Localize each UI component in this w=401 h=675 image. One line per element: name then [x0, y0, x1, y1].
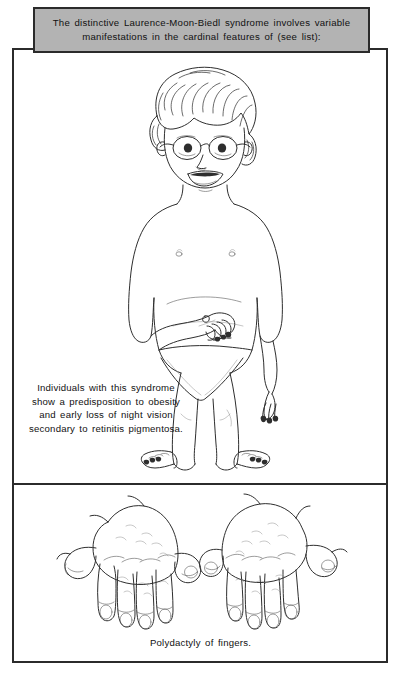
header-line-2: manifestations in the cardinal features …: [53, 30, 351, 44]
header-caption-text: The distinctive Laurence-Moon-Biedl synd…: [43, 16, 361, 44]
body-line-4: secondary to retinitis pigmentosa.: [22, 422, 190, 436]
eyeglasses: [160, 137, 250, 160]
panel-divider: [12, 483, 388, 485]
hands-caption-text: Polydactyly of fingers.: [0, 637, 401, 648]
left-arm-group: [151, 313, 235, 350]
left-hand-group: [57, 496, 201, 629]
body-line-1: Individuals with this syndrome: [22, 381, 190, 395]
body-line-3: and early loss of night vision: [22, 408, 190, 422]
face-group: [157, 128, 252, 188]
header-caption-box: The distinctive Laurence-Moon-Biedl synd…: [33, 7, 370, 53]
neck-torso-group: [129, 185, 283, 373]
right-arm-group: [260, 336, 278, 424]
hair-group: [150, 67, 256, 165]
body-line-2: show a predisposition to obesity: [22, 395, 190, 409]
feet-group: [141, 451, 269, 470]
hands-polydactyly-illustration: [30, 490, 375, 635]
body-description-text: Individuals with this syndrome show a pr…: [22, 381, 190, 435]
right-hand-group: [200, 494, 347, 629]
header-line-1: The distinctive Laurence-Moon-Biedl synd…: [53, 16, 351, 30]
